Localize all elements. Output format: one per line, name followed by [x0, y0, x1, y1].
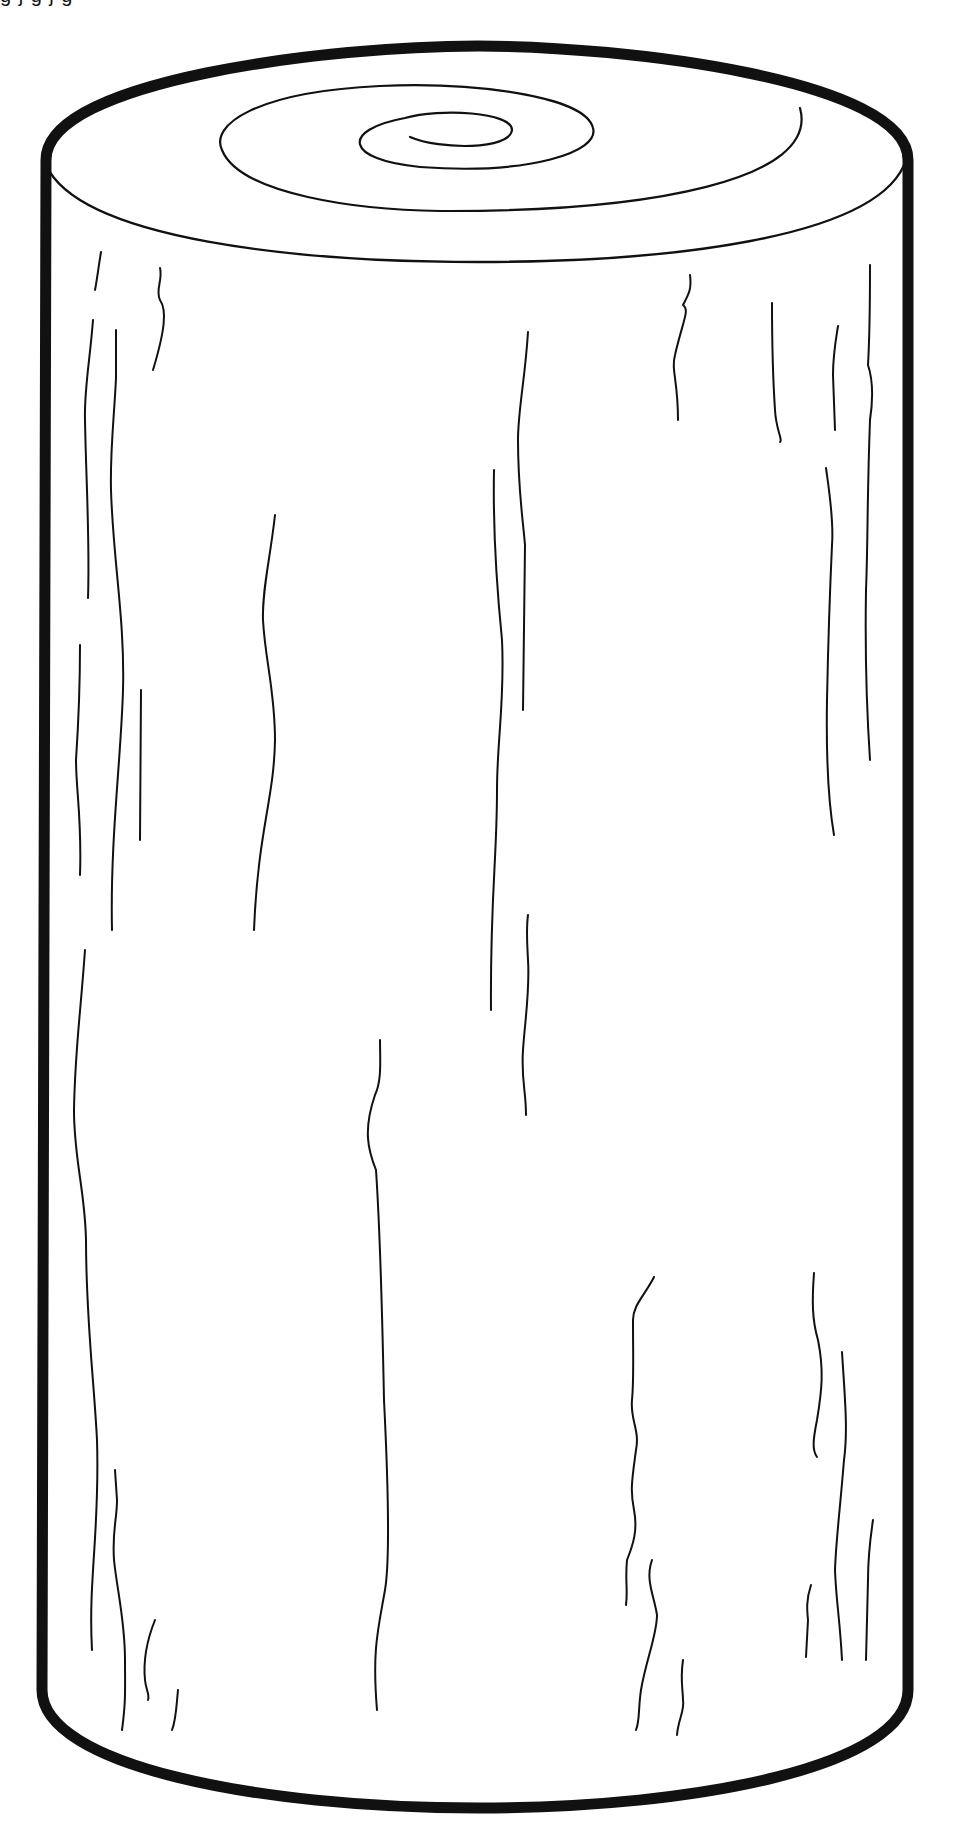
bark-grain-line	[254, 515, 275, 930]
bark-grain-line	[813, 1273, 822, 1457]
bark-grain-line	[826, 468, 834, 835]
bark-grain-line	[806, 1585, 811, 1657]
bark-grain-line	[153, 268, 164, 370]
bark-grain-line	[76, 645, 80, 875]
bark-grain-line	[368, 1040, 388, 1710]
bark-grain-lines	[74, 252, 873, 1735]
bark-grain-line	[835, 1352, 846, 1660]
bark-grain-line	[111, 330, 123, 930]
bark-grain-line	[172, 1690, 178, 1730]
bark-grain-line	[866, 265, 872, 760]
bark-grain-line	[626, 1277, 654, 1605]
bark-grain-line	[772, 303, 781, 442]
bark-grain-line	[114, 1470, 126, 1730]
bark-grain-line	[85, 320, 93, 598]
bark-grain-line	[636, 1560, 657, 1730]
bark-grain-line	[866, 1520, 873, 1660]
log-drawing	[0, 0, 955, 1842]
log-outline	[42, 46, 908, 1808]
bark-grain-line	[523, 915, 529, 1115]
bark-grain-line	[74, 950, 97, 1650]
bark-grain-line	[95, 252, 101, 290]
bark-grain-line	[518, 332, 528, 710]
bark-grain-line	[677, 1660, 683, 1735]
bark-grain-line	[674, 275, 691, 420]
bark-grain-line	[833, 326, 838, 430]
bark-grain-line	[140, 690, 141, 840]
tree-ring-spiral	[220, 85, 801, 211]
bark-grain-line	[144, 1620, 155, 1700]
bark-grain-line	[491, 470, 503, 1010]
